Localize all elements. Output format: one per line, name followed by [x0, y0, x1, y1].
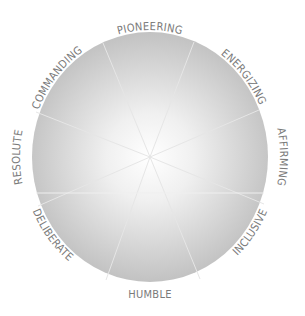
personality-wheel: PIONEERING ENERGIZING AFFIRMING INCLUSIV… [0, 0, 305, 316]
label-humble: HUMBLE [128, 288, 172, 301]
label-resolute: RESOLUTE [10, 128, 26, 185]
label-affirming: AFFIRMING [274, 127, 290, 187]
